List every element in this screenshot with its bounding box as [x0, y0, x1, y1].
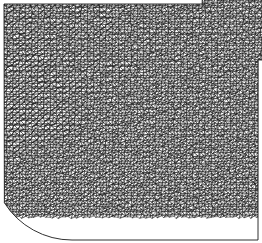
mesh-figure — [0, 0, 262, 243]
triangular-mesh-canvas — [0, 0, 262, 243]
